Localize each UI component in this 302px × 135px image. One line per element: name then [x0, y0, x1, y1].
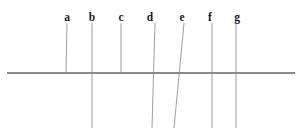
- stem-label-f: f: [202, 12, 218, 24]
- stem-line-group: [66, 22, 236, 128]
- stem-label-c: c: [113, 12, 129, 24]
- stem-label-b: b: [84, 12, 100, 24]
- figure-canvas: abcdefg: [0, 0, 302, 135]
- stem-line-a: [66, 23, 67, 73]
- stem-label-a: a: [59, 12, 75, 24]
- stem-label-g: g: [229, 12, 245, 24]
- stem-label-e: e: [174, 12, 190, 24]
- stem-label-d: d: [142, 12, 158, 24]
- stem-line-e: [174, 23, 184, 128]
- stem-line-d: [152, 23, 155, 128]
